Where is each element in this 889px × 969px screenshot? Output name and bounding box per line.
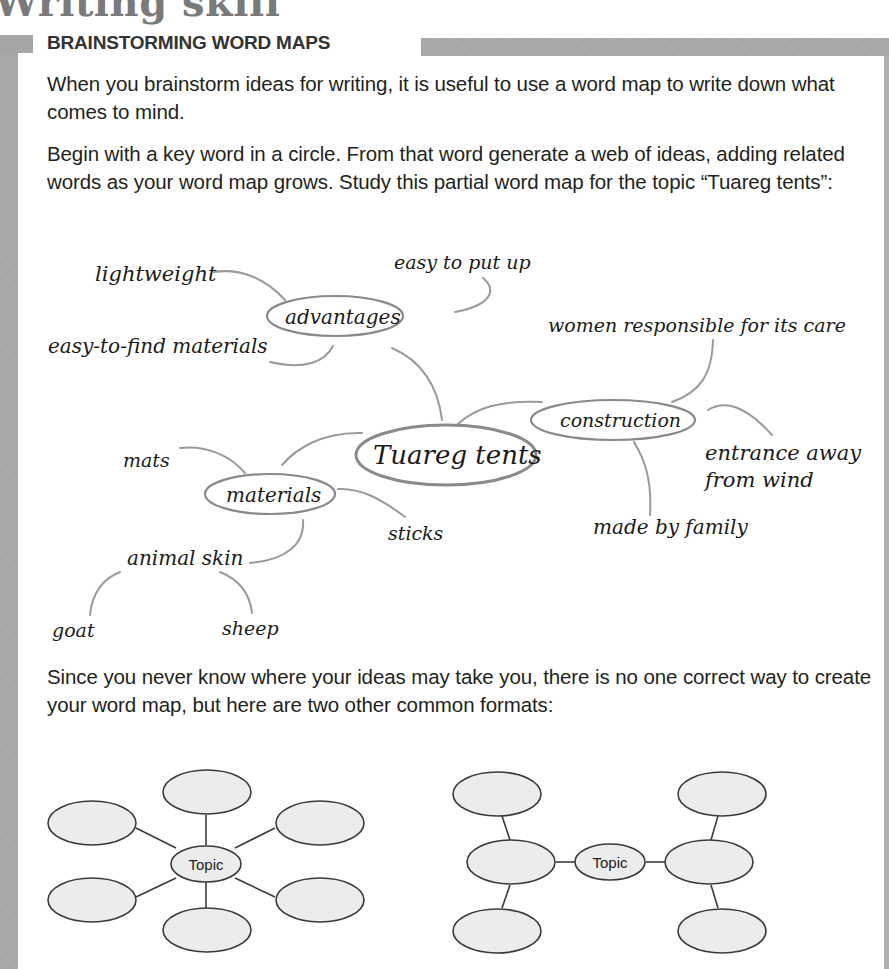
label-mats: mats xyxy=(123,449,170,471)
label-easy-to-find-materials: easy-to-find materials xyxy=(48,334,268,358)
label-advantages: advantages xyxy=(285,305,401,329)
word-map-diagram: lightweight easy to put up advantages ea… xyxy=(0,0,889,969)
label-made-by-family: made by family xyxy=(593,515,748,539)
label-construction: construction xyxy=(560,409,681,431)
label-tuareg-tents: Tuareg tents xyxy=(373,440,542,470)
radial-topic-label: Topic xyxy=(188,856,224,873)
linear-topic-label: Topic xyxy=(592,854,628,871)
label-easy-to-put-up: easy to put up xyxy=(394,251,531,273)
label-sheep: sheep xyxy=(222,617,279,639)
label-materials: materials xyxy=(226,483,321,507)
label-women-responsible: women responsible for its care xyxy=(548,314,846,336)
label-from-wind: from wind xyxy=(703,468,814,492)
label-animal-skin: animal skin xyxy=(127,546,244,570)
linear-format-diagram: Topic xyxy=(453,772,766,953)
label-lightweight: lightweight xyxy=(95,262,217,286)
radial-format-diagram: Topic xyxy=(48,770,364,952)
label-entrance-away: entrance away xyxy=(705,441,862,465)
word-map-labels: lightweight easy to put up advantages ea… xyxy=(48,251,862,641)
paragraph-text: Since you never know where your ideas ma… xyxy=(47,663,877,719)
label-sticks: sticks xyxy=(388,522,444,544)
label-goat: goat xyxy=(52,619,95,641)
formats-paragraph: Since you never know where your ideas ma… xyxy=(47,663,877,719)
